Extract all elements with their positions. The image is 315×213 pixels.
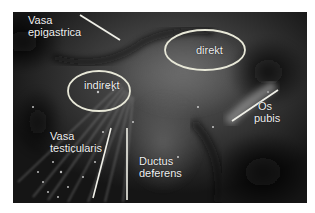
vasa-epigastrica-pointer (80, 15, 120, 40)
label-direkt: direkt (196, 44, 223, 56)
label-ductus-deferens-line1: Ductus (139, 155, 173, 167)
laparoscopic-photo: Vasa epigastrica indirekt direkt Os pubi… (13, 12, 307, 203)
label-vasa-testicularis-line1: Vasa (50, 130, 74, 142)
label-vasa-testicularis-line2: testicularis (50, 142, 102, 154)
indirekt-ellipse (68, 71, 130, 111)
label-indirekt: indirekt (84, 79, 119, 91)
label-os-pubis-line2: pubis (254, 112, 280, 124)
label-vasa-epigastrica-line2: epigastrica (28, 26, 81, 38)
label-os-pubis-line1: Os (258, 100, 272, 112)
vasa-testicularis-pointer (93, 128, 111, 198)
label-vasa-epigastrica-line1: Vasa (28, 14, 52, 26)
label-ductus-deferens-line2: deferens (139, 167, 182, 179)
